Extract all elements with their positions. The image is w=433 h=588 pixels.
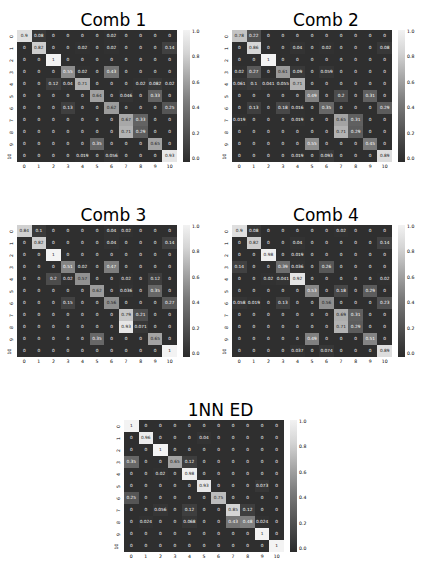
heatmap-cell: 0.71 [334, 321, 349, 333]
heatmap-cell: 0 [139, 528, 154, 540]
heatmap-cell: 0 [162, 285, 177, 297]
heatmap-cell: 0.43 [104, 66, 119, 78]
heatmap-cell: 0 [32, 249, 47, 261]
heatmap-cell: 0 [226, 540, 241, 552]
heatmap-cell: 0 [153, 480, 168, 492]
y-axis-comb-3: 012345678910 [6, 225, 17, 357]
x-tick-label: 6 [211, 552, 226, 559]
heatmap-cell: 0 [168, 432, 183, 444]
heatmap-cell: 0 [133, 345, 148, 357]
y-tick-label: 8 [6, 321, 15, 333]
heatmap-cell: 0 [148, 237, 163, 249]
heatmap-cell: 0 [162, 30, 177, 42]
y-tick-label: 5 [221, 285, 230, 297]
heatmap-cell: 0 [269, 480, 284, 492]
heatmap-cell: 0 [124, 504, 139, 516]
heatmap-cell: 0 [148, 42, 163, 54]
heatmap-cell: 0 [133, 297, 148, 309]
colorbar-comb-2: 1.00.80.60.40.20.0 [398, 30, 414, 162]
heatmap-cell: 0 [124, 480, 139, 492]
heatmap-cell: 0 [17, 285, 32, 297]
heatmap-cell: 0.96 [139, 432, 154, 444]
heatmap-cell: 0.056 [104, 150, 119, 162]
y-tick-label: 6 [6, 297, 15, 309]
heatmap-cell: 0 [153, 516, 168, 528]
heatmap-cell: 0 [319, 126, 334, 138]
heatmap-cell: 0.046 [119, 90, 134, 102]
heatmap-cell: 0.35 [124, 456, 139, 468]
y-tick-label: 4 [221, 273, 230, 285]
heatmap-cell: 0.02 [75, 42, 90, 54]
heatmap-cell: 0 [46, 150, 61, 162]
heatmap-cell: 0 [363, 249, 378, 261]
y-tick-label: 4 [113, 468, 122, 480]
heatmap-cell: 0.43 [226, 516, 241, 528]
x-tick-label: 10 [162, 357, 177, 364]
heatmap-cell: 0 [348, 138, 363, 150]
colorbar-tick-label: 1.0 [192, 30, 199, 35]
heatmap-cell: 0 [348, 90, 363, 102]
heatmap-cell: 0 [211, 444, 226, 456]
heatmap-cell: 0.02 [334, 225, 349, 237]
x-tick-label: 5 [197, 552, 212, 559]
heatmap-cell: 0 [334, 249, 349, 261]
y-tick-label: 10 [6, 345, 15, 357]
heatmap-cell: 0 [363, 66, 378, 78]
heatmap-cell: 0 [232, 345, 247, 357]
heatmap-cell: 0 [61, 237, 76, 249]
heatmap-cell: 0 [119, 54, 134, 66]
colorbar-tick-label: 0.6 [407, 276, 414, 281]
heatmap-cell: 0 [197, 420, 212, 432]
heatmap-cell: 0 [153, 540, 168, 552]
heatmap-cell: 0 [46, 345, 61, 357]
heatmap-cell: 0 [104, 54, 119, 66]
heatmap-cell: 0 [319, 333, 334, 345]
heatmap-cell: 0 [211, 480, 226, 492]
heatmap-cell: 0.84 [17, 225, 32, 237]
heatmap-cell: 0 [139, 468, 154, 480]
heatmap-cell: 0 [276, 30, 291, 42]
x-tick-label: 2 [261, 162, 276, 169]
heatmap-cell: 0 [124, 432, 139, 444]
heatmap-cell: 0 [240, 480, 255, 492]
heatmap-cell: 0 [17, 345, 32, 357]
heatmap-cell: 0 [168, 480, 183, 492]
heatmap-cell: 0.25 [124, 492, 139, 504]
heatmap-cell: 0 [148, 114, 163, 126]
heatmap-cell: 0 [124, 516, 139, 528]
heatmap-cell: 0 [232, 126, 247, 138]
heatmap-cell: 0.02 [61, 273, 76, 285]
heatmap-cell: 0 [139, 504, 154, 516]
colorbar-tick-label: 0.2 [407, 327, 414, 332]
heatmap-cell: 0 [255, 504, 270, 516]
heatmap-cell: 0 [348, 30, 363, 42]
heatmap-cell: 0 [290, 321, 305, 333]
heatmap-cell: 0 [334, 42, 349, 54]
x-tick-label: 10 [377, 357, 392, 364]
heatmap-cell: 0 [269, 492, 284, 504]
heatmap-cell: 0 [363, 126, 378, 138]
heatmap-cell: 0.019 [247, 297, 262, 309]
heatmap-cell: 0.92 [290, 273, 305, 285]
heatmap-cell: 0 [17, 237, 32, 249]
heatmap-cell: 0 [133, 249, 148, 261]
heatmap-cell: 0 [305, 321, 320, 333]
heatmap-cell: 0 [211, 516, 226, 528]
heatmap-cell: 0.69 [334, 309, 349, 321]
heatmap-cell: 0.64 [90, 90, 105, 102]
heatmap-cell: 0 [32, 102, 47, 114]
heatmap-cell: 0.49 [305, 333, 320, 345]
y-tick-label: 2 [6, 54, 15, 66]
heatmap-cell: 0 [197, 528, 212, 540]
x-tick-label: 6 [104, 357, 119, 364]
heatmap-cell: 0 [61, 30, 76, 42]
heatmap-cell: 0 [32, 261, 47, 273]
heatmap-cell: 0 [305, 66, 320, 78]
heatmap-cell: 0 [276, 150, 291, 162]
heatmap-cell: 0 [182, 432, 197, 444]
heatmap-cell: 0 [46, 66, 61, 78]
colorbar-tick-label: 0.6 [192, 81, 199, 86]
heatmap-cell: 0.82 [32, 42, 47, 54]
heatmap-cell: 0 [255, 444, 270, 456]
heatmap-cell: 1 [261, 54, 276, 66]
